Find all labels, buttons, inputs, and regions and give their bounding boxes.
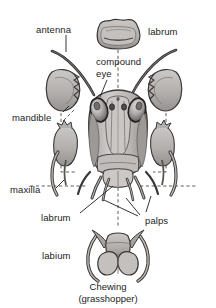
label-mandible: mandible [12,112,51,123]
mandible-right-shape [148,70,182,111]
label-labium: labium [42,250,71,261]
label-compound-eye-line1: compound [96,56,141,67]
maxilla-left-shape [52,120,77,195]
caption-line-1: Chewing [0,281,216,293]
mandible-left-shape [46,70,80,111]
label-labrum-top: labrum [148,26,178,37]
labium-shape [88,230,148,281]
labrum-top-shape [97,19,140,49]
mouthparts-figure: antenna labrum compound eye mandible max… [0,0,216,308]
label-labrum-lower: labrum [41,212,71,223]
insect-head-illustration [0,0,216,308]
head-capsule [88,90,148,187]
caption-line-2: (grasshopper) [0,293,216,305]
label-maxilla: maxilla [10,184,40,195]
label-compound-eye-line2: eye [96,68,112,79]
label-palps: palps [145,215,168,226]
label-antenna: antenna [36,24,71,35]
figure-caption: Chewing (grasshopper) [0,281,216,305]
